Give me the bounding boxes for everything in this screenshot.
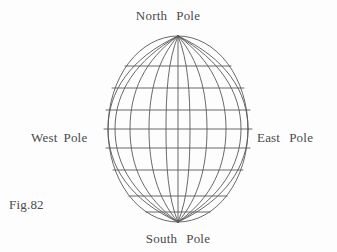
label-east-pole: EastPole: [257, 130, 313, 146]
globe-diagram: [0, 0, 337, 252]
figure-caption: Fig.82: [9, 197, 44, 213]
label-north-pole: NorthPole: [136, 8, 200, 24]
label-east-word2: Pole: [289, 130, 313, 145]
label-north-word2: Pole: [176, 8, 200, 23]
label-south-word2: Pole: [186, 231, 210, 246]
figure-canvas: NorthPole SouthPole WestPole EastPole Fi…: [0, 0, 337, 252]
label-west-word1: West: [31, 130, 57, 145]
label-south-word1: South: [146, 231, 177, 246]
label-south-pole: SouthPole: [146, 231, 210, 247]
label-west-pole: WestPole: [31, 130, 87, 146]
label-west-word2: Pole: [63, 130, 87, 145]
label-north-word1: North: [136, 8, 167, 23]
label-east-word1: East: [257, 130, 280, 145]
